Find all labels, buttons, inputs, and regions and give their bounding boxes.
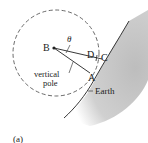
tick-D (96, 55, 97, 61)
vertical-pole-leader (69, 62, 73, 73)
earth-region (64, 10, 148, 126)
label-D: D (87, 49, 94, 60)
label-pole: pole (43, 78, 58, 88)
point-B (52, 46, 55, 49)
figure-caption: (a) (13, 134, 23, 143)
label-B: B (43, 42, 50, 53)
label-theta: θ (67, 34, 72, 44)
label-C: C (101, 52, 108, 63)
label-earth: Earth (95, 86, 115, 96)
label-A: A (88, 72, 96, 83)
diagram-canvas: B θ D C A vertical pole Earth (a) (0, 0, 148, 143)
